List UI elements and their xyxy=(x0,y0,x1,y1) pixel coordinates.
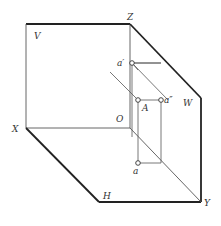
spacer xyxy=(132,137,138,163)
label-A: A xyxy=(141,103,149,113)
y-axis xyxy=(130,128,201,202)
point-a-double-prime xyxy=(159,98,164,103)
label-Z: Z xyxy=(126,12,134,22)
label-V: V xyxy=(34,31,42,41)
label-X: X xyxy=(11,124,19,134)
projector-line xyxy=(130,63,167,100)
aprime-to-adoubleprime-diag xyxy=(132,63,168,100)
label-W: W xyxy=(183,98,193,108)
point-A xyxy=(136,98,141,103)
label-Y: Y xyxy=(204,198,211,208)
label-H: H xyxy=(102,191,111,201)
box-top-diag xyxy=(130,63,167,100)
h-plane-left-edge xyxy=(26,128,99,202)
projection-diagram: V Z W X O H Y a′ a″ A a xyxy=(0,0,221,226)
point-a-prime xyxy=(130,61,135,66)
spacer xyxy=(130,137,138,145)
box-top-diag xyxy=(130,63,167,100)
label-a: a xyxy=(133,166,138,176)
a-front-diag xyxy=(110,72,138,100)
point-a xyxy=(136,161,141,166)
label-O: O xyxy=(116,114,124,124)
w-plane-top-edge xyxy=(130,24,201,98)
label-a-double-prime: a″ xyxy=(164,95,173,105)
label-a-prime: a′ xyxy=(117,58,124,68)
